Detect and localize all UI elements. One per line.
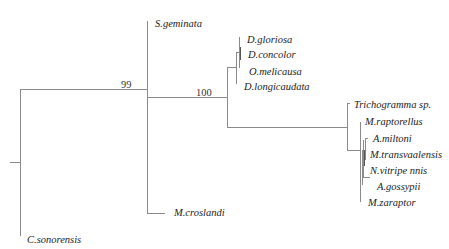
bootstrap-99: 99	[121, 80, 132, 91]
taxon-trichogramma: Trichogramma sp.	[354, 100, 431, 111]
taxon-s-geminata: S.geminata	[155, 19, 202, 30]
taxon-d-gloriosa: D.gloriosa	[247, 35, 292, 46]
taxon-m-raptorellus: M.raptorellus	[365, 117, 423, 128]
bootstrap-100: 100	[196, 88, 212, 99]
taxon-o-melicausa: O.melicausa	[249, 67, 302, 78]
taxon-d-concolor: D.concolor	[248, 50, 296, 61]
taxon-d-longicaudata: D.longicaudata	[244, 82, 310, 93]
taxon-c-sonorensis: C.sonorensis	[27, 235, 81, 246]
taxon-n-vitripennis: N.vitripe nnis	[370, 166, 427, 177]
taxon-a-miltoni: A.miltoni	[373, 134, 412, 145]
taxon-m-zaraptor: M.zaraptor	[368, 198, 416, 209]
taxon-m-croslandi: M.croslandi	[174, 208, 225, 219]
taxon-a-gossypii: A.gossypii	[377, 182, 420, 193]
taxon-m-transvaalensis: M.transvaalensis	[370, 150, 442, 161]
